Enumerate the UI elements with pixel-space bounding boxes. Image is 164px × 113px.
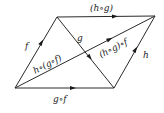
label-hg-f: (h∘g)∘f	[97, 36, 130, 60]
label-f: f	[24, 41, 30, 51]
arrow-gf-icon	[70, 86, 76, 90]
label-h-gf: h∘(g∘f)	[31, 53, 63, 76]
composition-diagram: f (h∘g) g h g∘f h∘(g∘f) (h∘g)∘f	[0, 0, 164, 113]
label-gf: g∘f	[53, 94, 68, 104]
label-h: h	[143, 50, 149, 60]
label-g: g	[77, 33, 83, 43]
arrow-diagonal-icon	[106, 36, 113, 42]
label-hg: (h∘g)	[90, 3, 113, 13]
arrow-hg-icon	[112, 14, 118, 18]
edge-hg	[57, 16, 155, 17]
